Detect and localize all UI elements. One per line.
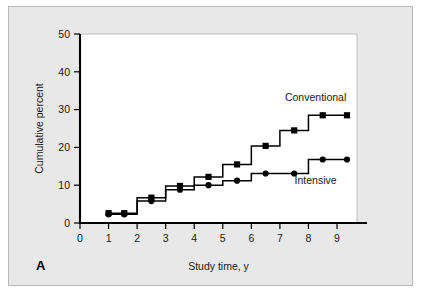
data-point-marker <box>263 170 269 176</box>
data-point-marker <box>205 174 211 180</box>
data-point-marker <box>291 127 297 133</box>
y-axis-title: Cumulative percent <box>33 83 45 174</box>
y-tick-label: 40 <box>58 66 70 78</box>
y-tick-label: 30 <box>58 103 70 115</box>
data-point-marker <box>234 178 240 184</box>
x-tick-label: 4 <box>191 232 197 244</box>
y-tick-label: 20 <box>58 141 70 153</box>
x-tick-label: 3 <box>163 232 169 244</box>
data-point-marker <box>205 182 211 188</box>
y-tick-label: 10 <box>58 179 70 191</box>
data-point-marker <box>234 161 240 167</box>
x-tick-label: 7 <box>277 232 283 244</box>
y-tick-label: 0 <box>64 217 70 229</box>
plot-area-background <box>80 34 357 223</box>
series-label: Intensive <box>295 174 337 186</box>
panel-label: A <box>36 258 46 273</box>
x-tick-label: 1 <box>106 232 112 244</box>
y-axis-ticks: 01020304050 <box>58 28 80 229</box>
x-axis-title: Study time, y <box>188 260 249 272</box>
data-point-marker <box>263 143 269 149</box>
data-point-marker <box>177 187 183 193</box>
cumulative-percent-step-chart: 01020304050 0123456789 ConventionalInten… <box>9 7 414 287</box>
x-tick-label: 9 <box>334 232 340 244</box>
x-tick-label: 5 <box>220 232 226 244</box>
x-tick-label: 8 <box>306 232 312 244</box>
data-point-marker <box>320 112 326 118</box>
data-point-marker <box>148 198 154 204</box>
data-point-marker <box>344 156 350 162</box>
data-point-marker <box>105 211 111 217</box>
series-label: Conventional <box>285 91 346 103</box>
data-point-marker <box>121 211 127 217</box>
data-point-marker <box>320 156 326 162</box>
x-tick-label: 2 <box>134 232 140 244</box>
x-tick-label: 0 <box>77 232 83 244</box>
figure-panel: 01020304050 0123456789 ConventionalInten… <box>8 6 413 286</box>
x-axis-ticks: 0123456789 <box>77 223 340 244</box>
x-tick-label: 6 <box>248 232 254 244</box>
data-point-marker <box>344 112 350 118</box>
y-tick-label: 50 <box>58 28 70 40</box>
